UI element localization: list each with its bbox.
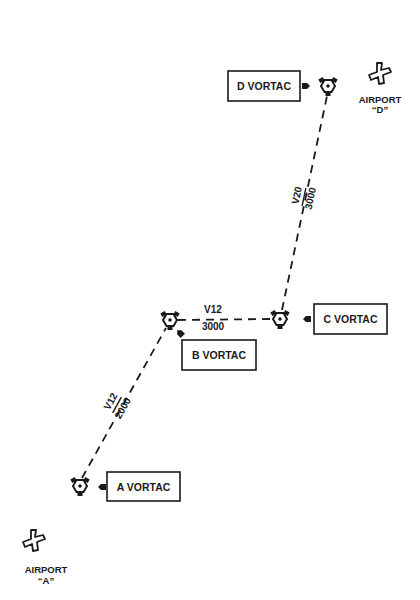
vortac-c-box: C VORTAC (314, 304, 387, 334)
airport-d: AIRPORT “D” (359, 63, 402, 115)
arrow-b-icon (175, 328, 185, 338)
vortac-d-box: D VORTAC (228, 71, 300, 101)
vortac-a-icon (70, 477, 89, 496)
airway-name: V12 (204, 304, 222, 315)
airport-d-sublabel: “D” (372, 104, 389, 115)
airport-a-sublabel: “A” (38, 575, 55, 586)
airway-diagram: V12 2000 V12 3000 V20 3000 A VORTAC B VO… (0, 0, 420, 600)
vortac-a-label: A VORTAC (117, 481, 171, 493)
airway-label-c-d: V20 3000 (289, 183, 318, 210)
airway-altitude: 3000 (202, 321, 225, 332)
airway-label-a-b: V12 2000 (100, 389, 133, 421)
airport-a: AIRPORT “A” (23, 530, 68, 586)
airway-b-c (178, 319, 272, 320)
arrow-d-icon (302, 83, 310, 89)
vortac-b-box: B VORTAC (182, 340, 256, 370)
airway-name: V20 (289, 185, 304, 205)
vortac-b-label: B VORTAC (192, 349, 246, 361)
airport-d-icon (369, 63, 391, 84)
arrow-a-icon (98, 484, 106, 490)
vortac-d-icon (318, 77, 337, 96)
arrow-c-icon (303, 316, 311, 322)
vortac-d-label: D VORTAC (237, 80, 291, 92)
airway-label-b-c: V12 3000 (202, 304, 225, 332)
vortac-b-icon (160, 311, 179, 330)
vortac-c-icon (270, 310, 289, 329)
airport-a-icon (23, 530, 45, 551)
airport-a-label: AIRPORT (25, 564, 68, 575)
vortac-c-label: C VORTAC (323, 313, 377, 325)
vortac-a-box: A VORTAC (107, 472, 180, 501)
